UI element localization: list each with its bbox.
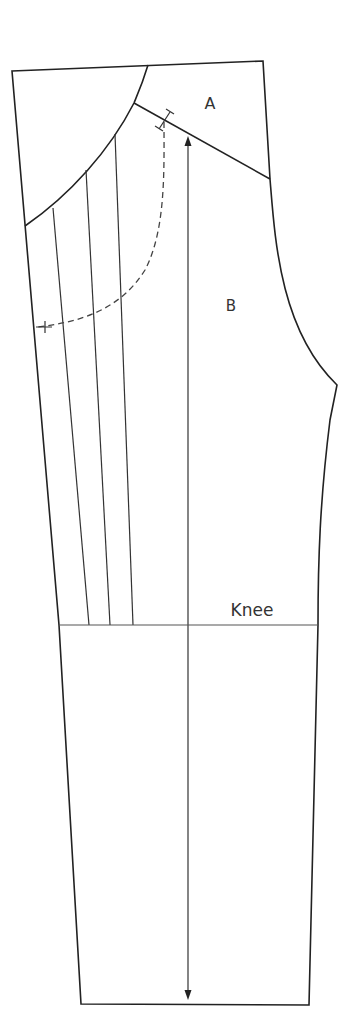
label-b: B — [226, 297, 236, 315]
yoke-seam-line — [134, 103, 270, 179]
dashed-pocket-curve — [38, 122, 164, 327]
slash-line-1 — [53, 208, 89, 625]
dashed-end-tick — [36, 321, 52, 333]
side-arc — [25, 65, 148, 226]
label-a: A — [205, 94, 216, 113]
label-knee: Knee — [231, 600, 274, 620]
slash-line-3 — [115, 134, 133, 625]
pattern-diagram: A B Knee — [0, 0, 352, 1025]
grainline-arrow — [185, 136, 192, 1000]
slash-line-2 — [86, 170, 110, 625]
pattern-outline — [12, 61, 337, 1005]
